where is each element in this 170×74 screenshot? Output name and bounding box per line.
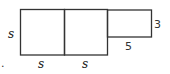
small-rectangle [108, 10, 152, 37]
square-right [65, 10, 108, 56]
label-bottom-left: s [38, 57, 44, 71]
label-rect-height: 3 [154, 18, 161, 31]
marker-dot: . [1, 57, 5, 70]
label-bottom-middle: s [82, 57, 88, 71]
square-left [21, 10, 65, 56]
label-left-side: s [8, 27, 14, 41]
label-rect-width: 5 [125, 40, 132, 53]
figure: s s s 3 5 . [0, 0, 170, 74]
